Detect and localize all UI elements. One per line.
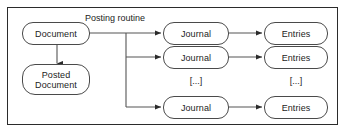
node-journal-1-label: Journal [181,29,211,39]
ellipsis-journal-more: [...] [163,76,229,86]
node-entries-1: Entries [264,22,328,45]
node-posted-document-label-line2: Document [35,80,77,90]
node-document-label: Document [35,29,77,39]
node-entries-3-label: Entries [282,103,311,113]
diagram-figure: Document Posted Document Posting routine… [0,0,347,134]
node-journal-3: Journal [163,96,229,119]
node-entries-3: Entries [264,96,328,119]
node-entries-2-label: Entries [282,53,311,63]
node-posted-document-label-line1: Posted [42,70,71,80]
node-journal-1: Journal [163,22,229,45]
ellipsis-entries-more: [...] [264,76,328,86]
node-journal-2-label: Journal [181,53,211,63]
edge-posting-routine-trunk [90,33,126,107]
node-journal-3-label: Journal [181,103,211,113]
node-entries-2: Entries [264,46,328,69]
node-entries-1-label: Entries [282,29,311,39]
node-journal-2: Journal [163,46,229,69]
node-document: Document [22,22,90,45]
node-posted-document: Posted Document [22,64,90,95]
edge-label-posting-routine: Posting routine [84,13,146,23]
